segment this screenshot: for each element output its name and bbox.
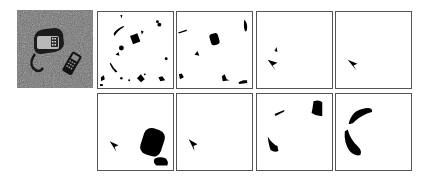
mask-2-2 [176, 93, 253, 171]
mask-2-3 [256, 93, 333, 171]
input-photo [17, 10, 93, 88]
mask-2-4 [335, 93, 412, 171]
mask-1-4 [335, 11, 412, 89]
photo-telephone-image [17, 10, 93, 88]
mask-2-1 [97, 93, 174, 171]
mask-1-3 [256, 11, 333, 89]
mask-1-1 [97, 11, 174, 89]
mask-1-2 [176, 11, 253, 89]
